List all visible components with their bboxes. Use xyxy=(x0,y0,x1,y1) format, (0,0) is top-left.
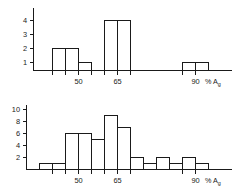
element-subscript-bottom: g xyxy=(218,180,221,186)
bar-top-4 xyxy=(118,21,131,71)
bar-bottom-2 xyxy=(66,134,79,170)
y-tick-label-top-2: 2 xyxy=(23,44,27,53)
y-tick-label-top-1: 1 xyxy=(23,58,27,67)
bar-bottom-12 xyxy=(196,164,209,170)
bar-bottom-3 xyxy=(79,134,92,170)
bar-bottom-6 xyxy=(118,128,131,170)
element-subscript-top: g xyxy=(218,81,221,87)
x-tick-label-bottom-50: 50 xyxy=(74,176,82,185)
bar-bottom-1 xyxy=(53,164,66,170)
svg-text:% Ag: % Ag xyxy=(205,77,221,87)
x-tick-label-top-65: 65 xyxy=(113,77,121,86)
bar-top-2 xyxy=(79,63,92,71)
bars-top xyxy=(53,21,209,71)
y-tick-label-bottom-6: 6 xyxy=(16,129,20,138)
x-ticks-bottom xyxy=(53,170,196,175)
bar-bottom-4 xyxy=(92,140,105,170)
bar-bottom-8 xyxy=(144,164,157,170)
x-tick-label-top-90: 90 xyxy=(191,77,199,86)
histogram-top-svg: 1 2 3 4 xyxy=(0,0,237,97)
bar-bottom-0 xyxy=(40,164,53,170)
x-axis-title-top: % Ag xyxy=(205,77,221,87)
y-tick-label-bottom-8: 8 xyxy=(16,117,20,126)
bar-bottom-9 xyxy=(157,158,170,170)
bar-top-3 xyxy=(105,21,118,71)
svg-text:% Ag: % Ag xyxy=(205,176,221,186)
bar-top-6 xyxy=(196,63,209,71)
histogram-top-panel: 1 2 3 4 xyxy=(0,0,237,97)
x-tick-labels-top: 50 65 90 xyxy=(74,77,199,86)
x-tick-label-bottom-65: 65 xyxy=(113,176,121,185)
y-tick-labels-top: 1 2 3 4 xyxy=(23,16,27,67)
y-tick-label-top-3: 3 xyxy=(23,30,27,39)
bar-top-1 xyxy=(66,49,79,71)
bar-bottom-10 xyxy=(170,164,183,170)
bar-bottom-11 xyxy=(183,158,196,170)
y-tick-label-top-4: 4 xyxy=(23,16,27,25)
x-tick-labels-bottom: 50 65 90 xyxy=(74,176,199,185)
x-axis-title-bottom: % Ag xyxy=(205,176,221,186)
y-tick-labels-bottom: 2 4 6 8 10 xyxy=(12,105,20,162)
histogram-bottom-panel: 2 4 6 8 10 xyxy=(0,97,237,194)
bar-top-0 xyxy=(53,49,66,71)
x-tick-label-bottom-90: 90 xyxy=(191,176,199,185)
y-tick-label-bottom-2: 2 xyxy=(16,153,20,162)
histogram-bottom-svg: 2 4 6 8 10 xyxy=(0,97,237,194)
bars-bottom xyxy=(40,116,209,170)
x-tick-label-top-50: 50 xyxy=(74,77,82,86)
two-panel-histogram-figure: 1 2 3 4 xyxy=(0,0,237,194)
bar-bottom-5 xyxy=(105,116,118,170)
y-tick-label-bottom-4: 4 xyxy=(16,141,20,150)
bar-bottom-7 xyxy=(131,158,144,170)
bar-top-5 xyxy=(183,63,196,71)
y-tick-label-bottom-10: 10 xyxy=(12,105,20,114)
x-ticks-top xyxy=(53,71,196,76)
